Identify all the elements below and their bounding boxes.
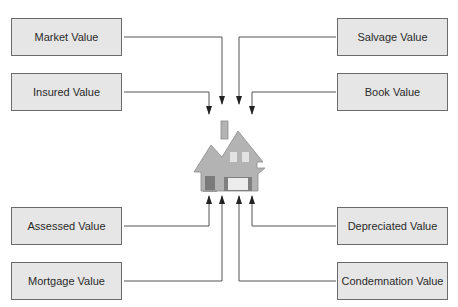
- arrow-down-icon: [249, 106, 255, 115]
- market-value-connector: [124, 37, 222, 104]
- mortgage-value-box: Mortgage Value: [11, 262, 122, 300]
- house-icon: [194, 121, 265, 192]
- mortgage-value-connector: [124, 196, 222, 281]
- arrow-up-icon: [249, 195, 255, 204]
- book-value-box: Book Value: [337, 73, 448, 111]
- market-value-label: Market Value: [35, 31, 99, 43]
- arrow-down-icon: [219, 96, 225, 105]
- depreciated-value-connector: [252, 196, 336, 226]
- condemnation-value-connector: [239, 196, 336, 281]
- salvage-value-connector: [239, 37, 336, 104]
- insured-value-label: Insured Value: [33, 86, 100, 98]
- book-value-label: Book Value: [365, 86, 420, 98]
- assessed-value-box: Assessed Value: [11, 207, 122, 245]
- assessed-value-label: Assessed Value: [27, 220, 105, 232]
- condemnation-value-box: Condemnation Value: [337, 262, 448, 300]
- insured-value-box: Insured Value: [11, 73, 122, 111]
- market-value-box: Market Value: [11, 18, 122, 56]
- arrow-down-icon: [236, 96, 242, 105]
- arrow-up-icon: [236, 195, 242, 204]
- salvage-value-label: Salvage Value: [357, 31, 427, 43]
- mortgage-value-label: Mortgage Value: [28, 275, 105, 287]
- arrow-down-icon: [206, 106, 212, 115]
- arrow-up-icon: [206, 195, 212, 204]
- insured-value-connector: [124, 92, 209, 114]
- book-value-connector: [252, 92, 336, 114]
- depreciated-value-label: Depreciated Value: [348, 220, 438, 232]
- salvage-value-box: Salvage Value: [337, 18, 448, 56]
- assessed-value-connector: [124, 196, 209, 226]
- arrow-up-icon: [219, 195, 225, 204]
- condemnation-value-label: Condemnation Value: [342, 275, 444, 287]
- depreciated-value-box: Depreciated Value: [337, 207, 448, 245]
